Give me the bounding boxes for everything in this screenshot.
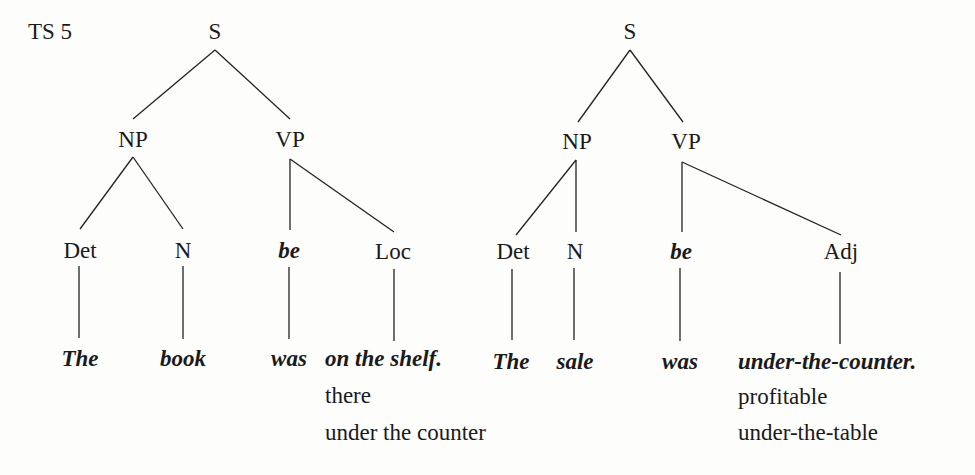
edge-np-n [133,157,183,229]
node-s-2: S [624,20,637,43]
alt-adj-1: profitable [738,385,827,408]
node-adj-2: Adj [824,240,859,263]
edge-vp-adj-2 [682,162,841,235]
node-det: Det [63,239,96,262]
edge-s-np [133,50,215,119]
edge-np-det [80,157,133,229]
edge-s-vp [215,50,290,119]
node-det-2: Det [496,240,529,263]
alt-loc-2: under the counter [325,421,486,444]
node-s: S [209,20,222,43]
leaf-det: The [61,347,98,370]
figure-label: TS 5 [28,20,72,43]
leaf-be-2: was [662,350,698,373]
node-np-2: NP [562,130,591,153]
leaf-adj-2: under-the-counter. [738,350,916,373]
edge-np-det-2 [516,160,576,235]
node-n: N [175,239,192,262]
node-vp-2: VP [671,130,700,153]
node-be-2: be [670,240,692,263]
node-loc: Loc [375,240,411,263]
leaf-loc: on the shelf. [325,347,442,370]
edge-s-vp-2 [630,50,683,122]
leaf-be: was [271,347,307,370]
edge-vp-loc [290,159,394,232]
alt-loc-1: there [325,384,371,407]
leaf-det-2: The [492,350,529,373]
node-vp: VP [275,128,304,151]
leaf-n: book [160,347,206,370]
alt-adj-2: under-the-table [738,421,878,444]
leaf-n-2: sale [556,350,593,373]
node-n-2: N [567,240,584,263]
node-np: NP [118,128,147,151]
node-be: be [278,239,300,262]
tree-edges [0,0,975,475]
edge-s-np-2 [578,50,630,122]
